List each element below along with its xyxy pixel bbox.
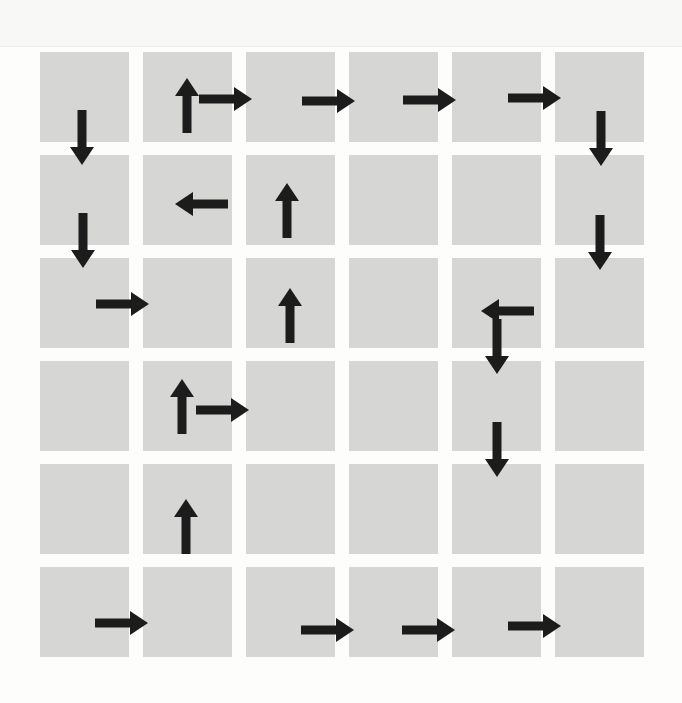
arrow-right-icon [196,398,249,422]
grid-cell-r5-c3 [246,464,335,554]
arrow-right-icon [403,88,456,112]
grid-cell-r4-c4 [349,361,438,451]
grid-cell-r6-c4 [349,567,438,657]
arrow-down-icon [70,110,94,165]
grid-cell-r4-c3 [246,361,335,451]
grid-cell-r4-c6 [555,361,644,451]
arrow-right-icon [508,86,561,110]
arrow-right-icon [199,87,252,111]
grid-cell-r5-c1 [40,464,129,554]
grid-cell-r2-c4 [349,155,438,245]
grid-cell-r6-c6 [555,567,644,657]
arrow-right-icon [402,618,455,642]
arrow-down-icon [589,111,613,166]
arrow-up-icon [275,183,299,238]
arrow-down-icon [71,213,95,268]
grid-cell-r5-c4 [349,464,438,554]
grid-cell-r6-c5 [452,567,541,657]
grid-cell-r3-c2 [143,258,232,348]
arrow-down-icon [485,319,509,374]
page-top-band [0,0,682,47]
grid-cell-r4-c1 [40,361,129,451]
arrow-right-icon [301,618,354,642]
grid-cell-r2-c5 [452,155,541,245]
arrow-right-icon [508,614,561,638]
arrow-up-icon [175,78,199,133]
grid-cell-r3-c4 [349,258,438,348]
grid-cell-r5-c6 [555,464,644,554]
grid-cell-r3-c6 [555,258,644,348]
arrow-up-icon [174,499,198,554]
grid-cell-r6-c3 [246,567,335,657]
arrow-up-icon [278,288,302,343]
arrow-left-icon [175,192,228,216]
arrow-down-icon [485,422,509,477]
grid-cell-r5-c5 [452,464,541,554]
arrow-right-icon [95,611,148,635]
arrow-up-icon [170,379,194,434]
grid-cell-r6-c2 [143,567,232,657]
arrow-right-icon [302,89,355,113]
arrow-down-icon [588,215,612,270]
arrow-right-icon [96,292,149,316]
